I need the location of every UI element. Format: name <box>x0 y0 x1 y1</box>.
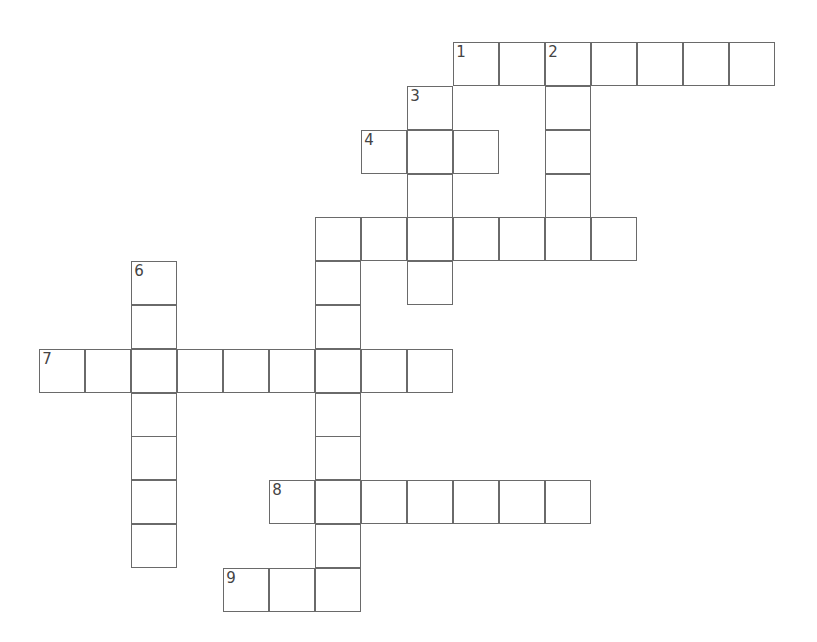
crossword-cell[interactable] <box>729 42 775 86</box>
crossword-cell[interactable] <box>545 174 591 218</box>
crossword-cell[interactable] <box>453 217 499 261</box>
crossword-cell[interactable] <box>361 480 407 524</box>
crossword-cell[interactable] <box>361 349 407 393</box>
crossword-cell[interactable] <box>499 480 545 524</box>
crossword-cell[interactable] <box>545 480 591 524</box>
crossword-cell[interactable] <box>361 217 407 261</box>
crossword-cell[interactable] <box>545 86 591 130</box>
crossword-cell[interactable] <box>453 130 499 174</box>
crossword-cell[interactable] <box>545 130 591 174</box>
crossword-cell[interactable] <box>407 217 453 261</box>
crossword-cell[interactable] <box>269 568 315 612</box>
crossword-cell[interactable] <box>591 217 637 261</box>
crossword-cell[interactable] <box>407 174 453 218</box>
clue-number: 8 <box>272 482 282 498</box>
crossword-cell[interactable] <box>131 393 177 437</box>
crossword-cell[interactable] <box>315 568 361 612</box>
crossword-cell[interactable] <box>315 436 361 480</box>
crossword-cell[interactable] <box>315 217 361 261</box>
crossword-cell[interactable] <box>315 480 361 524</box>
crossword-cell[interactable] <box>407 480 453 524</box>
clue-number: 6 <box>134 263 144 279</box>
crossword-cell[interactable] <box>85 349 131 393</box>
crossword-cell[interactable]: 9 <box>223 568 269 612</box>
crossword-cell[interactable] <box>315 305 361 349</box>
crossword-cell[interactable] <box>131 436 177 480</box>
crossword-cell[interactable]: 6 <box>131 261 177 305</box>
crossword-cell[interactable]: 7 <box>39 349 85 393</box>
crossword-cell[interactable]: 1 <box>453 42 499 86</box>
crossword-cell[interactable] <box>315 261 361 305</box>
crossword-cell[interactable] <box>223 349 269 393</box>
crossword-cell[interactable] <box>499 217 545 261</box>
crossword-cell[interactable] <box>453 480 499 524</box>
crossword-cell[interactable] <box>315 393 361 437</box>
crossword-cell[interactable] <box>131 349 177 393</box>
crossword-cell[interactable]: 8 <box>269 480 315 524</box>
crossword-cell[interactable] <box>545 217 591 261</box>
crossword-cell[interactable]: 2 <box>545 42 591 86</box>
crossword-cell[interactable] <box>407 349 453 393</box>
crossword-cell[interactable] <box>131 524 177 568</box>
crossword-cell[interactable] <box>683 42 729 86</box>
clue-number: 7 <box>42 351 52 367</box>
crossword-cell[interactable] <box>591 42 637 86</box>
crossword-cell[interactable] <box>637 42 683 86</box>
crossword-cell[interactable] <box>131 480 177 524</box>
clue-number: 3 <box>410 88 420 104</box>
crossword-grid: 12346789 <box>0 0 817 642</box>
crossword-cell[interactable]: 4 <box>361 130 407 174</box>
crossword-cell[interactable] <box>315 349 361 393</box>
clue-number: 4 <box>364 132 374 148</box>
clue-number: 2 <box>548 44 558 60</box>
crossword-cell[interactable] <box>177 349 223 393</box>
crossword-cell[interactable]: 3 <box>407 86 453 130</box>
crossword-cell[interactable] <box>407 130 453 174</box>
crossword-cell[interactable] <box>407 261 453 305</box>
crossword-cell[interactable] <box>499 42 545 86</box>
clue-number: 9 <box>226 570 236 586</box>
crossword-cell[interactable] <box>269 349 315 393</box>
crossword-cell[interactable] <box>131 305 177 349</box>
clue-number: 1 <box>456 44 466 60</box>
crossword-cell[interactable] <box>315 524 361 568</box>
